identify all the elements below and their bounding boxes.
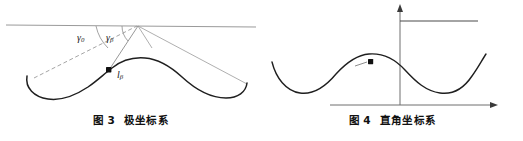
gamma-beta-label: γβ — [106, 33, 113, 44]
horizon-line — [6, 25, 256, 27]
cartesian-curve — [272, 54, 486, 93]
figure-4-caption-text: 直角坐标系 — [380, 112, 436, 127]
l-beta-label: lβ — [117, 70, 123, 81]
figure-4-drawing — [262, 0, 523, 112]
figure-page: γ0 γβ lβ 图 3极坐标系 — [0, 0, 523, 141]
figure-4-caption: 图 4直角坐标系 — [262, 112, 523, 127]
figure-3-caption-number: 图 3 — [93, 112, 115, 127]
marked-point-dot — [368, 59, 373, 64]
figure-3-drawing — [0, 0, 262, 112]
figure-4-caption-number: 图 4 — [349, 112, 371, 127]
figure-3-caption: 图 3极坐标系 — [0, 112, 262, 127]
y-axis-arrow — [397, 4, 403, 12]
point-label-leader — [355, 62, 367, 66]
figure-cartesian-coordinate: ymax (lβ,γβ) 图 4直角坐标系 — [262, 0, 523, 141]
x-axis-arrow — [490, 102, 498, 108]
figure-3-caption-text: 极坐标系 — [124, 112, 169, 127]
right-ray-line — [138, 26, 247, 84]
gamma-zero-label: γ0 — [77, 33, 84, 44]
polar-boundary-curve — [27, 58, 247, 100]
figure-polar-coordinate: γ0 γβ lβ 图 3极坐标系 — [0, 0, 262, 141]
gamma-beta-arc — [122, 26, 128, 41]
marked-point-dot — [106, 67, 111, 72]
